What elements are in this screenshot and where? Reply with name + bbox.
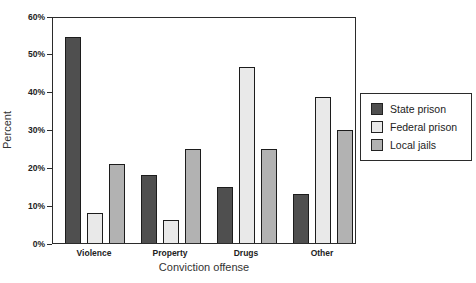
x-tick-label: Drugs <box>208 248 284 258</box>
bar-local-jails-drugs <box>261 149 277 243</box>
legend-label: Federal prison <box>390 121 457 133</box>
bar-state-prison-property <box>141 175 157 243</box>
bar-local-jails-other <box>337 130 353 243</box>
y-tick-label: 30% <box>11 126 45 135</box>
x-axis-label: Conviction offense <box>52 261 356 273</box>
bar-state-prison-drugs <box>217 187 233 243</box>
bar-local-jails-violence <box>109 164 125 243</box>
legend-item: Federal prison <box>371 121 461 133</box>
y-tick-label: 20% <box>11 164 45 173</box>
legend-label: State prison <box>390 103 446 115</box>
x-tick-label: Property <box>132 248 208 258</box>
bar-state-prison-violence <box>65 37 81 243</box>
y-tick-mark <box>47 17 52 18</box>
plot-area <box>52 17 356 244</box>
y-tick-mark <box>47 130 52 131</box>
bar-federal-prison-violence <box>87 213 103 243</box>
y-tick-mark <box>47 206 52 207</box>
bar-federal-prison-other <box>315 97 331 243</box>
bar-federal-prison-drugs <box>239 67 255 243</box>
y-tick-label: 0% <box>11 240 45 249</box>
y-tick-mark <box>47 92 52 93</box>
legend: State prisonFederal prisonLocal jails <box>360 93 472 161</box>
y-tick-mark <box>47 168 52 169</box>
y-tick-mark <box>47 244 52 245</box>
x-tick-label: Violence <box>56 248 132 258</box>
bar-state-prison-other <box>293 194 309 243</box>
y-tick-label: 60% <box>11 13 45 22</box>
y-tick-label: 40% <box>11 88 45 97</box>
y-tick-mark <box>47 54 52 55</box>
legend-item: Local jails <box>371 139 461 151</box>
bar-chart-figure: Percent 0%10%20%30%40%50%60% ViolencePro… <box>0 0 476 283</box>
y-tick-label: 10% <box>11 202 45 211</box>
y-tick-label: 50% <box>11 50 45 59</box>
x-tick-label: Other <box>284 248 360 258</box>
bar-local-jails-property <box>185 149 201 243</box>
legend-swatch-icon <box>371 139 383 151</box>
legend-label: Local jails <box>390 139 436 151</box>
legend-swatch-icon <box>371 103 383 115</box>
legend-item: State prison <box>371 103 461 115</box>
legend-swatch-icon <box>371 121 383 133</box>
bar-federal-prison-property <box>163 220 179 243</box>
